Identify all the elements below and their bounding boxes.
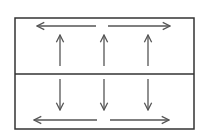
split-box-arrow-diagram bbox=[0, 0, 202, 138]
horizontal-arrows-group bbox=[34, 26, 170, 120]
vertical-arrows-group bbox=[60, 35, 148, 110]
